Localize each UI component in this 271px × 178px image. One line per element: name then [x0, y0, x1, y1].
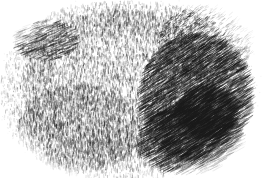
engraving-figure: Stipple engraving of a rounded organic m…	[0, 0, 271, 178]
stipple-engraving-canvas	[0, 0, 271, 178]
